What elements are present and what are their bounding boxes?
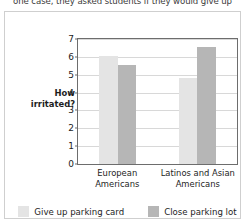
y-tick-label: 3 xyxy=(68,105,74,115)
y-tick-label: 4 xyxy=(68,88,74,98)
y-tick-label: 2 xyxy=(68,123,74,133)
bar xyxy=(179,78,198,164)
chart-legend: Give up parking cardClose parking lot xyxy=(9,206,245,217)
y-tick-mark xyxy=(75,164,78,165)
gridline xyxy=(78,39,237,40)
x-axis-category-label: EuropeanAmericans xyxy=(77,168,158,189)
y-tick-mark xyxy=(75,128,78,129)
y-tick-mark xyxy=(75,110,78,111)
x-axis-category-label-line: Americans xyxy=(158,179,239,190)
plot-area: 01234567 xyxy=(77,38,238,165)
y-axis-label: How irritated? xyxy=(13,88,75,110)
x-axis-category-labels: EuropeanAmericansLatinos and AsianAmeric… xyxy=(77,168,238,189)
y-axis-label-line-2: irritated? xyxy=(13,99,75,110)
legend-label: Close parking lot xyxy=(164,207,236,217)
plot-inner: 01234567 xyxy=(78,39,237,164)
bar xyxy=(118,65,137,164)
y-tick-mark xyxy=(75,56,78,57)
bar xyxy=(99,56,118,164)
y-tick-mark xyxy=(75,146,78,147)
x-axis-category-label-line: European xyxy=(77,168,158,179)
x-axis-category-label-line: Latinos and Asian xyxy=(158,168,239,179)
y-tick-label: 5 xyxy=(68,70,74,80)
legend-swatch xyxy=(18,206,29,217)
y-tick-mark xyxy=(75,92,78,93)
y-tick-mark xyxy=(75,39,78,40)
surrounding-body-text: one case, they asked students if they wo… xyxy=(0,0,245,8)
legend-item[interactable]: Close parking lot xyxy=(148,206,236,217)
y-tick-label: 6 xyxy=(68,52,74,62)
legend-label: Give up parking card xyxy=(34,207,124,217)
y-axis-label-line-1: How xyxy=(13,88,75,99)
bar xyxy=(197,47,216,164)
x-axis-category-label: Latinos and AsianAmericans xyxy=(158,168,239,189)
legend-swatch xyxy=(148,206,159,217)
y-tick-mark xyxy=(75,74,78,75)
chart-figure-box: How irritated? 01234567 EuropeanAmerican… xyxy=(4,11,241,219)
x-axis-category-label-line: Americans xyxy=(77,179,158,190)
y-tick-label: 1 xyxy=(68,141,74,151)
figure-container: one case, they asked students if they wo… xyxy=(0,0,245,223)
y-tick-label: 0 xyxy=(68,159,74,169)
legend-item[interactable]: Give up parking card xyxy=(18,206,124,217)
y-tick-label: 7 xyxy=(68,34,74,44)
